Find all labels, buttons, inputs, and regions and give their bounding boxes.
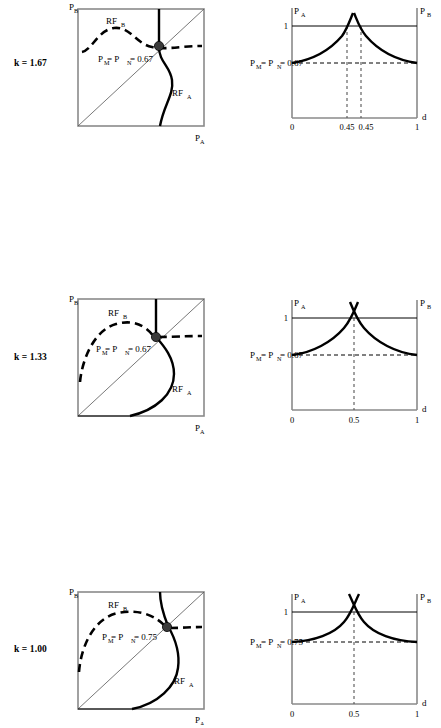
right-y-annotation: P M = P N = 0.67 xyxy=(250,350,304,362)
svg-text:P: P xyxy=(96,344,101,354)
right-y-left-label-sub: A xyxy=(301,597,306,604)
svg-text:= P: = P xyxy=(261,637,273,647)
svg-text:= P: = P xyxy=(105,344,117,354)
figure-row-2: k = 1.33 P B P A RF B RF A P M = P N = 0… xyxy=(0,290,441,435)
left-y-axis-label-sub: B xyxy=(74,7,78,14)
right-top-tick: 1 xyxy=(284,313,288,323)
right-y-left-label: P xyxy=(294,298,299,308)
right-panel-row-1: P A P B 1 d 0 0.45 0.45 1 P M = P N = 0.… xyxy=(250,0,441,145)
k-label-row-1: k = 1.67 xyxy=(14,58,47,68)
rf-a-label-sub: A xyxy=(187,389,192,396)
right-y-left-label-sub: A xyxy=(301,11,306,18)
right-y-annotation: P M = P N = 0.75 xyxy=(250,637,304,649)
right-y-right-label: P xyxy=(420,298,425,308)
figure-row-1: k = 1.67 P B P A RF B RF A P M = P N = 0… xyxy=(0,0,441,145)
x-tick-1: 0.5 xyxy=(349,709,360,719)
rf-a-label: RF xyxy=(174,676,185,686)
right-panel-row-2: P A P B 1 d 0 0.5 1 P M = P N = 0.67 xyxy=(250,290,441,435)
k-label-row-2: k = 1.33 xyxy=(14,352,47,362)
equilibrium-point xyxy=(162,622,171,631)
svg-text:P: P xyxy=(250,350,255,360)
svg-text:= 0.67: = 0.67 xyxy=(128,344,152,354)
right-y-right-label-sub: B xyxy=(427,597,431,604)
left-x-axis-label-sub: A xyxy=(200,720,205,725)
svg-text:= P: = P xyxy=(111,632,123,642)
svg-text:P: P xyxy=(98,54,103,64)
right-y-left-label-sub: A xyxy=(301,303,306,310)
left-panel-row-3: P B P A RF B RF A P M = P N = 0.75 xyxy=(60,580,220,725)
x-tick-1: 0.45 xyxy=(340,122,355,132)
equilibrium-annotation: P M = P N = 0.67 xyxy=(98,54,154,66)
right-y-right-label-sub: B xyxy=(427,303,431,310)
equilibrium-annotation: P M = P N = 0.75 xyxy=(102,632,158,644)
right-y-annotation: P M = P N = 0.67 xyxy=(250,58,304,70)
right-y-right-label: P xyxy=(420,592,425,602)
rf-a-label: RF xyxy=(172,384,183,394)
x-tick-2: 1 xyxy=(415,415,419,425)
svg-text:P: P xyxy=(102,632,107,642)
rf-a-label: RF xyxy=(172,88,183,98)
left-y-axis-label-sub: B xyxy=(74,299,78,306)
right-y-right-label-sub: B xyxy=(427,11,431,18)
svg-text:= 0.75: = 0.75 xyxy=(134,632,158,642)
right-panel-row-3: P A P B 1 d 0 0.5 1 P M = P N = 0.75 xyxy=(250,580,441,725)
svg-text:= P: = P xyxy=(261,58,273,68)
right-y-right-label: P xyxy=(420,6,425,16)
right-y-left-label: P xyxy=(294,592,299,602)
figure-row-3: k = 1.00 P B P A RF B RF A P M = P N = 0… xyxy=(0,580,441,725)
right-x-axis-label: d xyxy=(422,112,427,122)
right-top-tick: 1 xyxy=(284,21,288,31)
rf-a-label-sub: A xyxy=(187,93,192,100)
x-tick-2: 0.45 xyxy=(359,122,374,132)
equilibrium-point xyxy=(154,41,163,50)
right-x-axis-label: d xyxy=(422,404,427,414)
rf-b-label-sub: B xyxy=(123,605,127,612)
rf-b-label: RF xyxy=(108,308,119,318)
svg-text:P: P xyxy=(250,637,255,647)
svg-text:= P: = P xyxy=(261,350,273,360)
rf-b-label: RF xyxy=(106,16,117,26)
svg-text:= 0.67: = 0.67 xyxy=(280,58,304,68)
svg-text:= 0.67: = 0.67 xyxy=(130,54,154,64)
rf-b-label-sub: B xyxy=(121,21,125,28)
right-top-tick: 1 xyxy=(284,607,288,617)
x-tick-2: 1 xyxy=(415,709,419,719)
k-label-row-3: k = 1.00 xyxy=(14,644,47,654)
x-tick-0: 0 xyxy=(290,122,294,132)
right-y-left-label: P xyxy=(294,6,299,16)
equilibrium-annotation: P M = P N = 0.67 xyxy=(96,344,152,356)
x-tick-0: 0 xyxy=(290,709,294,719)
x-tick-0: 0 xyxy=(290,415,294,425)
left-panel-row-2: P B P A RF B RF A P M = P N = 0.67 xyxy=(60,290,220,435)
left-y-axis-label-sub: B xyxy=(74,592,78,599)
svg-text:= 0.67: = 0.67 xyxy=(280,350,304,360)
equilibrium-point xyxy=(151,332,160,341)
left-x-axis-label-sub: A xyxy=(200,138,205,145)
rf-a-label-sub: A xyxy=(189,681,194,688)
rf-b-label-sub: B xyxy=(123,313,127,320)
x-tick-1: 0.5 xyxy=(349,415,360,425)
x-tick-3: 1 xyxy=(415,122,419,132)
rf-b-label: RF xyxy=(108,600,119,610)
left-panel-row-1: P B P A RF B RF A P M = P N = 0.67 xyxy=(60,0,220,145)
figure-root: k = 1.67 P B P A RF B RF A P M = P N = 0… xyxy=(0,0,441,728)
right-x-axis-label: d xyxy=(422,698,427,708)
left-x-axis-label-sub: A xyxy=(200,428,205,435)
svg-text:P: P xyxy=(250,58,255,68)
svg-text:= 0.75: = 0.75 xyxy=(280,637,304,647)
svg-text:= P: = P xyxy=(107,54,119,64)
